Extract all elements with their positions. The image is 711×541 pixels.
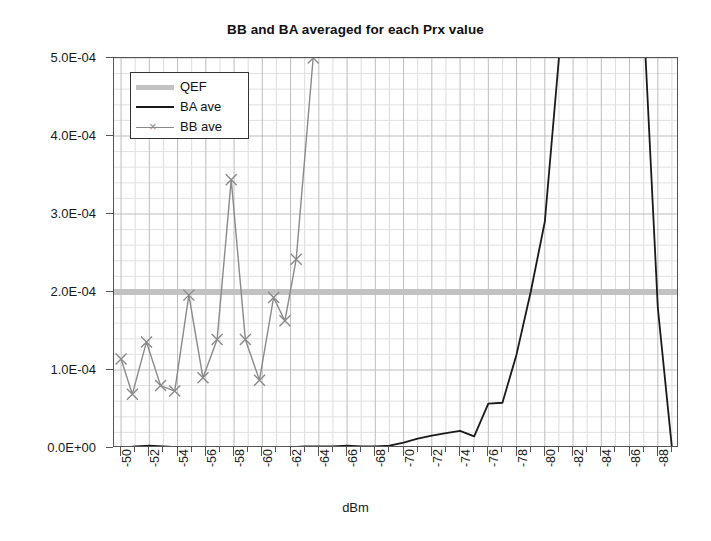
y-tick <box>106 369 113 370</box>
y-tick <box>106 57 113 58</box>
x-axis-ticks <box>113 447 678 456</box>
x-tick-label: -54 <box>177 449 191 467</box>
x-tick-minor <box>219 447 220 452</box>
chart-title: BB and BA averaged for each Prx value <box>0 22 711 37</box>
x-tick-label: -52 <box>148 449 162 467</box>
legend-item-qef: QEF <box>136 77 243 97</box>
legend-item-ba-ave: BA ave <box>136 97 243 117</box>
ba-ave-swatch-icon <box>136 100 174 114</box>
x-tick-label: -86 <box>629 449 643 467</box>
x-tick-label: -68 <box>374 449 388 467</box>
y-tick-label: 3.0E-04 <box>50 206 96 221</box>
marker-x <box>141 336 152 347</box>
x-axis-title: dBm <box>0 500 711 515</box>
bb-ave-swatch-icon: × <box>136 120 174 134</box>
qef-swatch-icon <box>136 80 174 94</box>
x-tick-label: -88 <box>657 449 671 467</box>
x-tick-minor <box>614 447 615 452</box>
x-tick-label: -80 <box>544 449 558 467</box>
y-tick <box>106 213 113 214</box>
x-tick-minor <box>586 447 587 452</box>
y-tick-label: 4.0E-04 <box>50 128 96 143</box>
y-tick-label: 5.0E-04 <box>50 50 96 65</box>
marker-x <box>155 380 166 391</box>
y-tick-label: 1.0E-04 <box>50 362 96 377</box>
legend-label-bb-ave: BB ave <box>180 120 222 134</box>
x-tick-minor <box>332 447 333 452</box>
x-tick-minor <box>360 447 361 452</box>
x-tick-label: -58 <box>233 449 247 467</box>
x-tick-label: -62 <box>290 449 304 467</box>
chart-root: BB and BA averaged for each Prx value 0.… <box>0 0 711 541</box>
y-tick-label: 2.0E-04 <box>50 284 96 299</box>
x-tick-minor <box>501 447 502 452</box>
x-tick-label: -60 <box>261 449 275 467</box>
x-axis-labels: -50-52-54-56-58-60-62-64-66-68-70-72-74-… <box>113 458 678 506</box>
legend-item-bb-ave: × BB ave <box>136 117 243 137</box>
x-tick-label: -50 <box>120 449 134 467</box>
x-tick-label: -70 <box>403 449 417 467</box>
x-tick-minor <box>671 447 672 452</box>
y-tick <box>106 135 113 136</box>
marker-x <box>127 389 138 400</box>
y-axis-labels: 0.0E+001.0E-042.0E-043.0E-044.0E-045.0E-… <box>0 57 105 447</box>
x-tick-minor <box>275 447 276 452</box>
legend-label-ba-ave: BA ave <box>180 100 221 114</box>
x-tick-label: -66 <box>346 449 360 467</box>
x-tick-minor <box>445 447 446 452</box>
y-tick <box>106 291 113 292</box>
x-tick-minor <box>473 447 474 452</box>
marker-x <box>116 354 127 365</box>
legend-label-qef: QEF <box>180 80 207 94</box>
legend: QEF BA ave × BB ave <box>130 72 249 139</box>
x-tick-label: -78 <box>516 449 530 467</box>
x-tick-label: -56 <box>205 449 219 467</box>
x-tick-label: -74 <box>459 449 473 467</box>
x-tick-label: -64 <box>318 449 332 467</box>
x-tick-minor <box>247 447 248 452</box>
x-tick-label: -72 <box>431 449 445 467</box>
y-tick-label: 0.0E+00 <box>47 440 96 455</box>
x-tick-label: -82 <box>572 449 586 467</box>
x-tick-minor <box>162 447 163 452</box>
x-tick-label: -76 <box>487 449 501 467</box>
x-tick-minor <box>388 447 389 452</box>
x-tick-minor <box>558 447 559 452</box>
x-tick-label: -84 <box>600 449 614 467</box>
x-tick-minor <box>134 447 135 452</box>
y-tick <box>106 447 113 448</box>
